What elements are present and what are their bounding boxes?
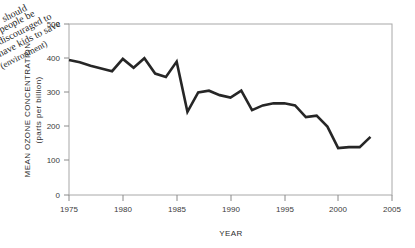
x-tick-label: 1995 xyxy=(276,205,294,214)
x-axis-title: YEAR xyxy=(219,229,242,238)
x-tick-label: 2000 xyxy=(329,205,347,214)
y-tick-label: 200 xyxy=(47,122,61,131)
chart-svg: 0 100 200 300 400 500 1975 1980 1985 199… xyxy=(0,0,415,248)
x-tick-label: 2005 xyxy=(383,205,401,214)
x-axis-ticks xyxy=(69,195,392,201)
ozone-line-chart-figure: 0 100 200 300 400 500 1975 1980 1985 199… xyxy=(0,0,415,248)
y-tick-label: 100 xyxy=(47,156,61,165)
x-tick-label: 1985 xyxy=(168,205,186,214)
y-axis-ticks xyxy=(64,24,69,195)
y-axis-title-line1: MEAN OZONE CONCENTRATION xyxy=(23,43,32,178)
y-tick-label: 400 xyxy=(47,54,61,63)
x-axis-tick-labels: 1975 1980 1985 1990 1995 2000 2005 xyxy=(60,205,401,214)
x-tick-label: 1990 xyxy=(222,205,240,214)
y-axis-tick-labels: 0 100 200 300 400 500 xyxy=(47,20,61,200)
x-tick-label: 1980 xyxy=(114,205,132,214)
y-axis-title-line2: (parts per billion) xyxy=(34,76,43,143)
y-tick-label: 300 xyxy=(47,88,61,97)
y-tick-label: 0 xyxy=(56,191,61,200)
x-tick-label: 1975 xyxy=(60,205,78,214)
plot-area-frame xyxy=(69,24,392,195)
